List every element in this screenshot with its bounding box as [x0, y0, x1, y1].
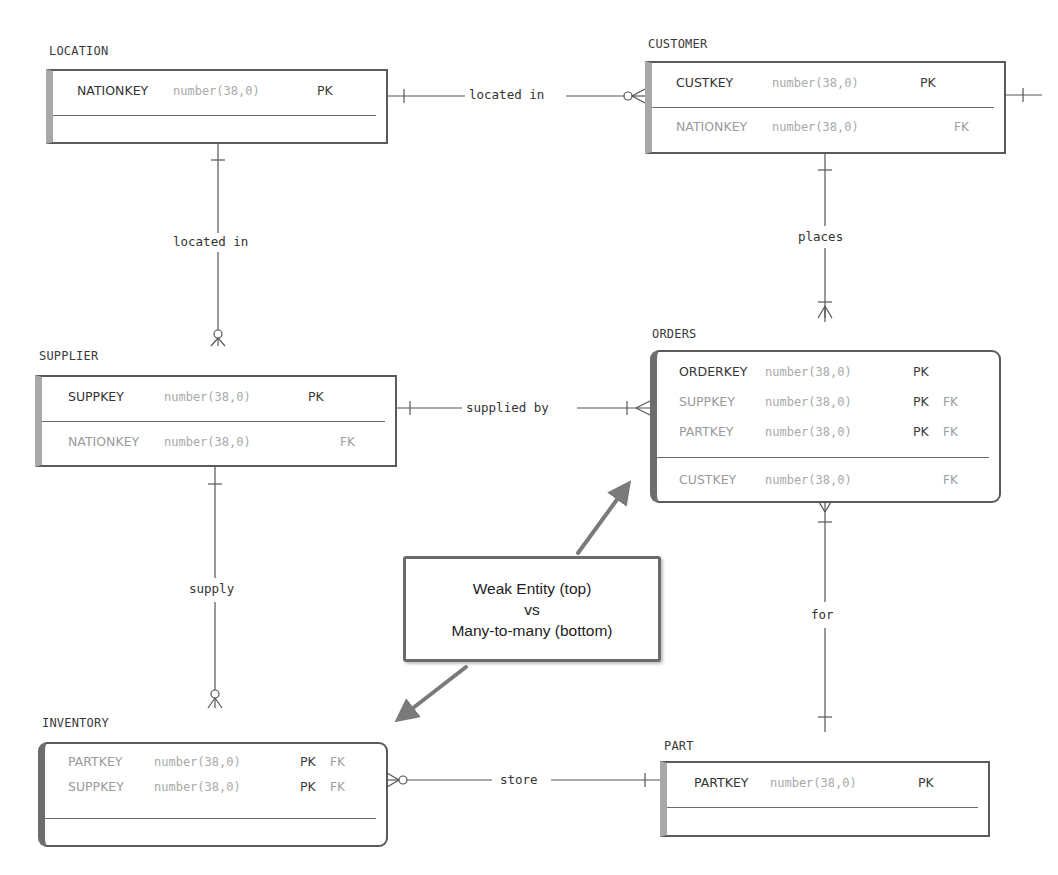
- column-name: CUSTKEY: [679, 470, 736, 490]
- column-type: number(38,0): [770, 773, 857, 793]
- fk-badge: FK: [943, 422, 958, 442]
- rel-label-orders-part: for: [808, 607, 837, 623]
- rel-label-location-supplier: located in: [170, 234, 251, 250]
- column-name: SUPPKEY: [68, 387, 124, 407]
- column-name: PARTKEY: [68, 752, 122, 772]
- rel-label-supplier-orders: supplied by: [463, 400, 552, 416]
- attribute-section: CUSTKEY number(38,0) FK: [657, 458, 999, 502]
- entity-title-inventory: INVENTORY: [42, 716, 109, 730]
- pk-section: NATIONKEY number(38,0) PK: [53, 71, 376, 116]
- pk-badge: PK: [920, 73, 936, 93]
- column-type: number(38,0): [154, 777, 241, 797]
- er-diagram-canvas: located in located in places supplied by…: [0, 0, 1058, 875]
- column-name: PARTKEY: [679, 422, 733, 442]
- annotation-callout: Weak Entity (top) vs Many-to-many (botto…: [403, 556, 661, 662]
- pk-badge: PK: [918, 773, 934, 793]
- pk-badge: PK: [300, 777, 316, 797]
- entity-orders[interactable]: ORDERKEY number(38,0) PK SUPPKEY number(…: [650, 350, 1001, 503]
- pk-section: SUPPKEY number(38,0) PK: [42, 377, 385, 422]
- callout-line-1: Weak Entity (top): [473, 578, 592, 599]
- column-type: number(38,0): [765, 422, 852, 442]
- attribute-section: NATIONKEY number(38,0) FK: [652, 108, 1004, 152]
- pk-section: ORDERKEY number(38,0) PK SUPPKEY number(…: [657, 352, 989, 458]
- pk-badge: PK: [300, 752, 316, 772]
- column-name: ORDERKEY: [679, 362, 747, 382]
- entity-location[interactable]: NATIONKEY number(38,0) PK: [46, 69, 388, 144]
- connector-customer-right-stub: [1005, 88, 1042, 102]
- column-name: SUPPKEY: [679, 392, 735, 412]
- attribute-section: NATIONKEY number(38,0) FK: [42, 422, 395, 466]
- pk-section: CUSTKEY number(38,0) PK: [652, 63, 994, 108]
- entity-supplier[interactable]: SUPPKEY number(38,0) PK NATIONKEY number…: [35, 375, 397, 467]
- callout-line-2: vs: [524, 599, 540, 620]
- column-name: PARTKEY: [694, 773, 748, 793]
- entity-part[interactable]: PARTKEY number(38,0) PK: [660, 761, 990, 837]
- column-name: NATIONKEY: [676, 117, 747, 137]
- column-type: number(38,0): [765, 392, 852, 412]
- callout-arrow-to-orders: [578, 490, 624, 553]
- column-type: number(38,0): [765, 470, 852, 490]
- column-name: SUPPKEY: [68, 777, 124, 797]
- fk-badge: FK: [340, 432, 355, 452]
- column-type: number(38,0): [772, 73, 859, 93]
- fk-badge: FK: [330, 752, 345, 772]
- column-type: number(38,0): [173, 81, 260, 101]
- callout-arrow-to-inventory: [404, 667, 466, 715]
- entity-title-customer: CUSTOMER: [648, 37, 707, 51]
- pk-section: PARTKEY number(38,0) PK: [667, 763, 978, 808]
- rel-label-inventory-part: store: [497, 772, 541, 788]
- pk-badge: PK: [913, 392, 929, 412]
- rel-label-customer-orders: places: [795, 229, 846, 245]
- column-type: number(38,0): [772, 117, 859, 137]
- column-type: number(38,0): [164, 432, 251, 452]
- entity-title-location: LOCATION: [49, 44, 108, 58]
- fk-badge: FK: [943, 470, 958, 490]
- entity-inventory[interactable]: PARTKEY number(38,0) PK FK SUPPKEY numbe…: [38, 742, 388, 847]
- fk-badge: FK: [330, 777, 345, 797]
- pk-section: PARTKEY number(38,0) PK FK SUPPKEY numbe…: [45, 744, 376, 819]
- fk-badge: FK: [943, 392, 958, 412]
- column-name: CUSTKEY: [676, 73, 733, 93]
- pk-badge: PK: [308, 387, 324, 407]
- entity-title-orders: ORDERS: [652, 327, 697, 341]
- entity-customer[interactable]: CUSTKEY number(38,0) PK NATIONKEY number…: [645, 61, 1006, 154]
- fk-badge: FK: [954, 117, 969, 137]
- pk-badge: PK: [913, 362, 929, 382]
- column-type: number(38,0): [765, 362, 852, 382]
- pk-badge: PK: [317, 81, 333, 101]
- column-type: number(38,0): [164, 387, 251, 407]
- callout-line-3: Many-to-many (bottom): [451, 620, 612, 641]
- column-name: NATIONKEY: [68, 432, 139, 452]
- rel-label-supplier-inventory: supply: [186, 581, 237, 597]
- entity-title-part: PART: [664, 739, 694, 753]
- pk-badge: PK: [913, 422, 929, 442]
- column-name: NATIONKEY: [77, 81, 148, 101]
- rel-label-location-customer: located in: [466, 87, 547, 103]
- entity-title-supplier: SUPPLIER: [39, 349, 98, 363]
- column-type: number(38,0): [154, 752, 241, 772]
